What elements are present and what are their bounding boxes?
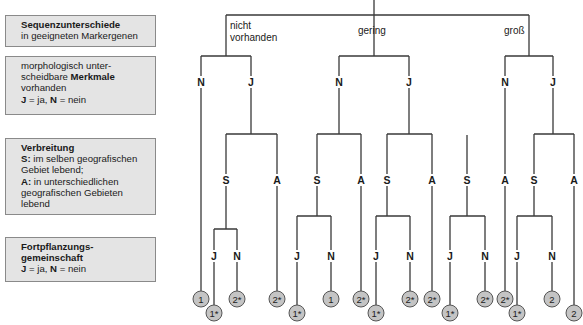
leaf-node: 2* — [497, 291, 513, 307]
label-high: groß — [504, 25, 525, 36]
leaf-node: 2* — [402, 291, 418, 307]
node-j: J — [373, 250, 379, 262]
svg-text:2*: 2* — [357, 294, 366, 305]
svg-text:1*: 1* — [293, 308, 302, 319]
node-j: J — [550, 76, 556, 88]
node-n: N — [197, 76, 205, 88]
leaf-node: 1* — [368, 305, 384, 321]
leaf-node: 2* — [353, 291, 369, 307]
node-n: N — [501, 76, 509, 88]
node-s: S — [222, 174, 229, 186]
node-j: J — [406, 76, 412, 88]
node-n: N — [548, 250, 556, 262]
svg-text:1*: 1* — [513, 308, 522, 319]
svg-text:2*: 2* — [273, 294, 282, 305]
node-a: A — [570, 174, 578, 186]
svg-text:1: 1 — [328, 294, 333, 305]
svg-text:2*: 2* — [501, 294, 510, 305]
node-j: J — [294, 250, 300, 262]
node-a: A — [357, 174, 365, 186]
leaf-node: 2 — [544, 291, 560, 307]
svg-text:1*: 1* — [210, 308, 219, 319]
node-n: N — [481, 250, 489, 262]
node-n: N — [406, 250, 414, 262]
node-a: A — [501, 174, 509, 186]
svg-text:2: 2 — [549, 294, 554, 305]
decision-tree: nicht vorhanden gering groß N J N J N J … — [0, 0, 583, 325]
label-low: gering — [358, 25, 386, 36]
leaf-node: 2* — [424, 291, 440, 307]
node-n: N — [327, 250, 335, 262]
svg-text:2: 2 — [571, 308, 576, 319]
node-a: A — [273, 174, 281, 186]
node-n: N — [233, 250, 241, 262]
node-j: J — [447, 250, 453, 262]
leaf-node: 1* — [289, 305, 305, 321]
svg-text:1*: 1* — [446, 308, 455, 319]
leaf-node: 2 — [566, 305, 582, 321]
label-none-line1: nicht — [230, 20, 251, 31]
node-j: J — [248, 76, 254, 88]
label-none-line2: vorhanden — [230, 32, 277, 43]
svg-text:2*: 2* — [406, 294, 415, 305]
leaf-node: 2* — [269, 291, 285, 307]
svg-text:1*: 1* — [372, 308, 381, 319]
svg-text:2*: 2* — [481, 294, 490, 305]
leaf-node: 2* — [477, 291, 493, 307]
node-j: J — [514, 250, 520, 262]
node-a: A — [428, 174, 436, 186]
leaf-node: 1* — [509, 305, 525, 321]
svg-text:1: 1 — [198, 294, 203, 305]
node-s: S — [530, 174, 537, 186]
svg-text:2*: 2* — [428, 294, 437, 305]
node-j: J — [211, 250, 217, 262]
leaf-node: 1 — [193, 291, 209, 307]
leaf-node: 1* — [442, 305, 458, 321]
leaf-node: 1* — [206, 305, 222, 321]
node-n: N — [335, 76, 343, 88]
leaf-node: 2* — [229, 291, 245, 307]
node-s: S — [313, 174, 320, 186]
leaf-node: 1 — [323, 291, 339, 307]
node-s: S — [463, 174, 470, 186]
node-s: S — [383, 174, 390, 186]
svg-text:2*: 2* — [233, 294, 242, 305]
